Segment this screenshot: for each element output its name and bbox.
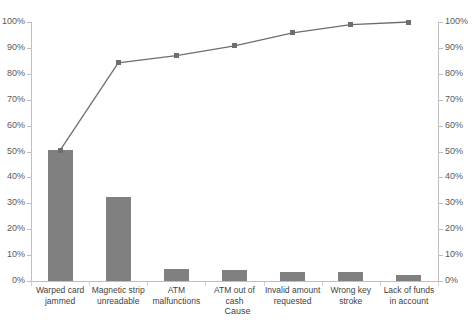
plot-area: 100%100%90%90%80%80%70%70%60%60%50%50%40… (0, 0, 475, 322)
bar (280, 272, 305, 281)
y-axis-right-tick (439, 48, 443, 49)
y-axis-right-tick (439, 100, 443, 101)
x-axis-tick (438, 282, 439, 286)
y-axis-left-tick-label: 70% (1, 95, 25, 104)
y-axis-right-tick-label: 40% (445, 172, 475, 181)
x-axis-category-label: Lack of funds in account (380, 285, 438, 307)
line-marker (348, 22, 353, 27)
y-axis-right-tick (439, 74, 443, 75)
y-axis-left-tick (27, 203, 31, 204)
y-axis-right-tick (439, 229, 443, 230)
x-axis-category-label: Wrong key stroke (322, 285, 380, 307)
line-marker (232, 43, 237, 48)
line-marker (58, 148, 63, 153)
bar (396, 275, 421, 281)
y-axis-right-tick (439, 22, 443, 23)
y-axis-left-tick (27, 74, 31, 75)
line-marker (406, 20, 411, 25)
y-axis-left-tick-label: 80% (1, 69, 25, 78)
y-axis-right-tick (439, 281, 443, 282)
y-axis-left-tick (27, 177, 31, 178)
y-axis-right-tick-label: 0% (445, 276, 475, 285)
y-axis-right-tick-label: 90% (445, 43, 475, 52)
y-axis-right-tick-label: 70% (445, 95, 475, 104)
y-axis-right-tick-label: 50% (445, 147, 475, 156)
y-axis-right-tick (439, 152, 443, 153)
y-axis-right-tick-label: 80% (445, 69, 475, 78)
y-axis-left-tick-label: 100% (1, 17, 25, 26)
bar (164, 269, 189, 281)
y-axis-left-tick-label: 10% (1, 250, 25, 259)
y-axis-left-tick (27, 229, 31, 230)
y-axis-right-tick (439, 255, 443, 256)
y-axis-left-tick (27, 126, 31, 127)
y-axis-right-tick-label: 20% (445, 224, 475, 233)
line-marker (174, 53, 179, 58)
y-axis-left-tick (27, 100, 31, 101)
y-axis-left-tick-label: 0% (1, 276, 25, 285)
x-axis-category-label: ATM malfunctions (147, 285, 205, 307)
y-axis-right-tick (439, 203, 443, 204)
y-axis-right-tick (439, 126, 443, 127)
y-axis-right-tick (439, 177, 443, 178)
x-axis-category-label: Invalid amount requested (264, 285, 322, 307)
bar (106, 197, 131, 281)
y-axis-left-tick-label: 60% (1, 121, 25, 130)
bar (338, 272, 363, 281)
bar (222, 270, 247, 281)
x-axis-category-label: ATM out of cash (205, 285, 263, 307)
pareto-chart: 100%100%90%90%80%80%70%70%60%60%50%50%40… (0, 0, 475, 322)
y-axis-left-tick-label: 40% (1, 172, 25, 181)
x-axis-title: Cause (0, 306, 475, 317)
line-marker (290, 30, 295, 35)
y-axis-right-tick-label: 60% (445, 121, 475, 130)
bar (48, 150, 73, 281)
y-axis-left-tick (27, 255, 31, 256)
x-axis-category-label: Warped card jammed (31, 285, 89, 307)
y-axis-left-tick-label: 30% (1, 198, 25, 207)
y-axis-left-tick (27, 48, 31, 49)
y-axis-left-tick-label: 20% (1, 224, 25, 233)
y-axis-left-tick-label: 50% (1, 147, 25, 156)
line-marker (116, 60, 121, 65)
y-axis-left-tick-label: 90% (1, 43, 25, 52)
y-axis-right-tick-label: 100% (445, 17, 475, 26)
y-axis-right-tick-label: 30% (445, 198, 475, 207)
x-axis-category-label: Magnetic strip unreadable (89, 285, 147, 307)
y-axis-right-tick-label: 10% (445, 250, 475, 259)
y-axis-left-tick (27, 152, 31, 153)
y-axis-left-tick (27, 22, 31, 23)
